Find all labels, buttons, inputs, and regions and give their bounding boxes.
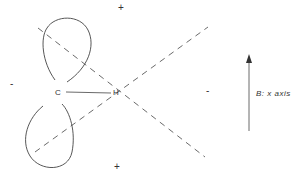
field-label: B: x axis — [256, 90, 291, 98]
arrow-up-icon — [246, 54, 252, 63]
sign-top: + — [118, 3, 124, 13]
lower-orbital-lobe — [26, 104, 74, 168]
atom-label-hydrogen: H — [113, 89, 119, 97]
c-h-bond — [66, 92, 111, 93]
sign-right: - — [206, 86, 209, 96]
sign-bottom: + — [114, 162, 120, 172]
atom-label-carbon: C — [55, 89, 61, 97]
sign-left: - — [10, 79, 13, 89]
